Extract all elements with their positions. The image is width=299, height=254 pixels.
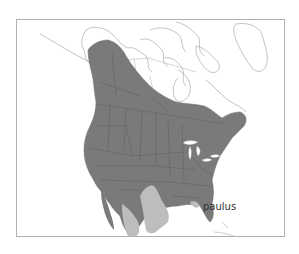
range-map: paulus xyxy=(0,0,299,254)
map-canvas xyxy=(0,0,299,254)
species-label: paulus xyxy=(203,202,236,212)
